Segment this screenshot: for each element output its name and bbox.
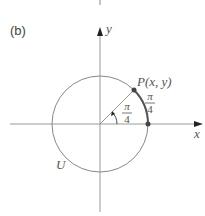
arc-angle-denominator: 4	[147, 103, 153, 115]
x-axis-label: x	[193, 126, 200, 141]
circle-label-u: U	[56, 157, 67, 172]
arc-pi-over-4	[134, 90, 148, 124]
point-one-zero	[146, 122, 151, 127]
point-p-label: P(x, y)	[136, 74, 172, 89]
arc-angle-numerator: π	[147, 90, 153, 102]
y-axis-arrow-icon	[97, 27, 103, 36]
y-axis-label: y	[104, 21, 112, 36]
unit-circle-diagram: (b) y x P(x, y) π 4 π 4 U	[0, 0, 205, 216]
central-angle-denominator: 4	[124, 113, 130, 125]
central-angle-numerator: π	[124, 100, 130, 112]
point-p	[132, 88, 137, 93]
panel-label: (b)	[10, 23, 26, 38]
